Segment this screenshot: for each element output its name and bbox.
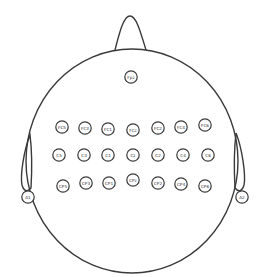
electrode-label: FC2 [154, 126, 162, 131]
electrode-fcz: FCz [127, 124, 139, 136]
electrode-cz: Cz [127, 149, 139, 161]
electrode-fc6: FC6 [199, 119, 211, 131]
electrode-label: C5 [56, 153, 62, 158]
electrode-cpz: CPz [127, 174, 139, 186]
electrode-fc5: FC5 [56, 121, 68, 133]
electrode-label: C1 [105, 153, 111, 158]
electrode-label: FC5 [58, 125, 66, 130]
electrode-label: CP6 [201, 184, 209, 189]
electrode-a1: A1 [22, 191, 34, 203]
electrode-label: FC4 [177, 125, 185, 130]
electrode-cp4: CP4 [175, 178, 187, 190]
electrode-label: FCz [129, 128, 137, 133]
electrode-label: FC6 [201, 123, 209, 128]
electrode-cp2: CP2 [152, 177, 164, 189]
electrode-label: FC3 [81, 126, 89, 131]
electrode-c1: C1 [102, 149, 114, 161]
electrode-label: CP2 [154, 181, 162, 186]
electrode-fc1: FC1 [102, 123, 114, 135]
electrode-label: C4 [180, 153, 186, 158]
electrode-c2: C2 [152, 149, 164, 161]
electrode-label: CP4 [177, 182, 185, 187]
electrode-label: C3 [81, 153, 87, 158]
head-diagram-svg: FpzFC5FC3FC1FCzFC2FC4FC6C5C3C1CzC2C4C6CP… [0, 0, 262, 277]
electrode-fpz: Fpz [125, 71, 137, 83]
electrode-cp3: CP3 [80, 177, 92, 189]
electrode-label: Fpz [127, 75, 135, 80]
electrode-label: C2 [155, 153, 161, 158]
electrode-label: CP3 [82, 181, 90, 186]
electrode-label: C6 [205, 153, 211, 158]
electrode-c6: C6 [202, 149, 214, 161]
electrode-fc4: FC4 [175, 121, 187, 133]
electrode-label: A2 [239, 195, 245, 200]
electrode-c5: C5 [53, 149, 65, 161]
electrode-cp6: CP6 [199, 180, 211, 192]
electrode-label: CP1 [105, 181, 113, 186]
electrode-c4: C4 [177, 149, 189, 161]
electrode-c3: C3 [78, 149, 90, 161]
electrode-label: FC1 [104, 127, 112, 132]
electrode-label: CP5 [59, 184, 67, 189]
electrode-fc2: FC2 [152, 122, 164, 134]
electrode-label: Cz [130, 153, 136, 158]
nose-shape [115, 16, 146, 50]
electrode-label: A1 [25, 195, 31, 200]
electrode-a2: A2 [236, 191, 248, 203]
electrode-cp5: CP5 [57, 180, 69, 192]
electrode-fc3: FC3 [79, 122, 91, 134]
electrode-label: CPz [129, 178, 137, 183]
electrode-cp1: CP1 [103, 177, 115, 189]
eeg-diagram: FpzFC5FC3FC1FCzFC2FC4FC6C5C3C1CzC2C4C6CP… [0, 0, 262, 277]
